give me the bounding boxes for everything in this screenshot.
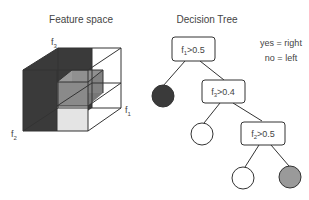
leaf-white-1	[191, 123, 213, 145]
tree-node-1: f1>0.5	[172, 37, 215, 61]
axis-label-f2: f2	[11, 129, 18, 141]
decision-tree-panel: Decision Tree yes = right no = left f1>0…	[152, 14, 302, 189]
axis-label-f1: f1	[125, 105, 132, 117]
tree-node-2: f3>0.4	[202, 80, 245, 103]
axis-label-f3: f3	[51, 37, 58, 49]
leaf-white-2	[232, 167, 254, 189]
leaf-dark	[152, 85, 174, 107]
light-region	[57, 106, 88, 131]
decision-tree-title: Decision Tree	[176, 14, 238, 25]
tree-node-3: f2>0.5	[241, 122, 285, 145]
legend-yes: yes = right	[260, 38, 302, 48]
feature-space-panel: Feature space	[11, 14, 132, 141]
feature-space-title: Feature space	[49, 14, 113, 25]
leaf-gray	[279, 166, 301, 188]
diagram-canvas: Feature space	[0, 0, 309, 200]
tree-edges	[163, 61, 289, 167]
legend-no: no = left	[265, 53, 298, 63]
